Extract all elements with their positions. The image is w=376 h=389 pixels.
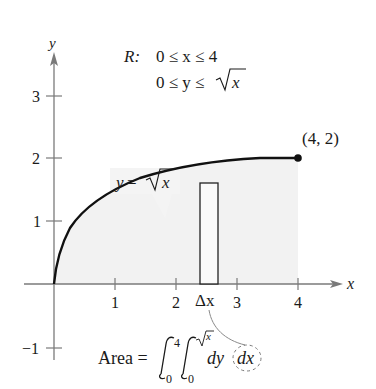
delta-x-label: Δx bbox=[195, 291, 215, 310]
x-tick-label-4: 4 bbox=[294, 294, 302, 311]
y-tick-label-3: 3 bbox=[32, 88, 40, 105]
svg-text:y: y bbox=[114, 173, 124, 192]
svg-text:x: x bbox=[231, 73, 240, 92]
x-axis-label: x bbox=[346, 275, 354, 292]
y-tick-label-1: 1 bbox=[33, 213, 41, 230]
delta-to-dx-connector bbox=[209, 310, 245, 345]
region-diagram: y x 1 2 3 4 3 2 1 −1 R: 0 ≤ x ≤ 4 0 ≤ y … bbox=[0, 0, 376, 389]
svg-text:x: x bbox=[205, 330, 211, 342]
region-label: R: bbox=[123, 47, 140, 66]
region-condition-y: 0 ≤ y ≤ x bbox=[156, 69, 246, 92]
y-tick-label-2: 2 bbox=[32, 150, 40, 167]
point-label: (4, 2) bbox=[302, 129, 339, 148]
endpoint-marker bbox=[294, 154, 302, 162]
area-formula: Area = 4 0 x 0 dy dx bbox=[98, 330, 261, 386]
region-condition-x: 0 ≤ x ≤ 4 bbox=[156, 47, 218, 66]
x-tick-label-1: 1 bbox=[111, 294, 119, 311]
svg-text:dx: dx bbox=[237, 348, 254, 368]
svg-text:x: x bbox=[161, 173, 170, 192]
svg-text:0 ≤ y ≤: 0 ≤ y ≤ bbox=[156, 73, 204, 92]
svg-text:4: 4 bbox=[174, 336, 180, 350]
svg-text:dy: dy bbox=[207, 348, 224, 368]
y-axis-label: y bbox=[47, 35, 56, 51]
x-tick-label-2: 2 bbox=[172, 294, 180, 311]
svg-text:=: = bbox=[127, 173, 137, 192]
svg-text:Area =: Area = bbox=[98, 348, 148, 368]
svg-text:0: 0 bbox=[166, 372, 172, 386]
representative-rectangle bbox=[200, 183, 218, 284]
svg-text:0: 0 bbox=[188, 372, 194, 386]
y-tick-label-neg1: −1 bbox=[22, 340, 39, 357]
x-tick-label-3: 3 bbox=[233, 294, 241, 311]
